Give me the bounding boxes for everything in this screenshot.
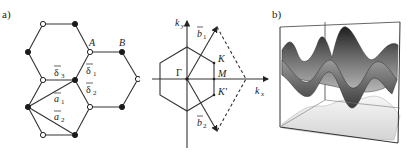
svg-text:1: 1: [93, 70, 97, 78]
delta2-label: δ 2: [86, 83, 97, 97]
svg-text:y: y: [180, 22, 185, 30]
Kprime-point: [213, 94, 216, 97]
site-filled: [119, 104, 124, 109]
site-open: [40, 21, 45, 26]
M-point: [213, 78, 216, 81]
site-open: [87, 104, 92, 109]
brillouin-zone-diagram: k y k x Γ M K K' b 1 b 2: [140, 0, 280, 153]
svg-text:1: 1: [61, 98, 65, 106]
svg-text:δ: δ: [86, 84, 91, 95]
site-filled: [72, 21, 77, 26]
panel-a-brillouin-zone: k y k x Γ M K K' b 1 b 2: [140, 0, 280, 153]
panel-b-band-structure: b): [270, 0, 419, 153]
svg-text:x: x: [260, 90, 265, 98]
K-point: [213, 62, 216, 65]
svg-text:b: b: [197, 28, 202, 39]
svg-text:2: 2: [93, 89, 97, 97]
site-filled: [72, 132, 77, 137]
svg-text:k: k: [175, 17, 180, 28]
M-label: M: [217, 68, 227, 79]
svg-text:2: 2: [203, 122, 207, 130]
Kprime-label: K': [217, 86, 228, 97]
svg-text:2: 2: [61, 116, 65, 124]
site-filled: [25, 49, 30, 54]
a1-label: a 1: [54, 93, 65, 106]
svg-text:δ: δ: [54, 67, 59, 78]
lower-band-surface: [282, 96, 400, 140]
panel-b-label: b): [272, 8, 282, 21]
gamma-point: [185, 77, 189, 81]
panel-a-lattice: a): [0, 0, 140, 153]
svg-text:b: b: [197, 117, 202, 128]
svg-text:δ: δ: [86, 65, 91, 76]
b2-label: b 2: [197, 116, 207, 130]
site-filled: [25, 104, 30, 109]
site-open: [40, 77, 45, 82]
site-A-label: A: [88, 37, 96, 48]
panel-a-label: a): [2, 8, 11, 21]
b2-vector: [187, 79, 217, 131]
site-B-label: B: [119, 37, 125, 48]
delta3-label: δ 3: [54, 66, 65, 80]
ky-label: k y: [175, 17, 185, 30]
gamma-label: Γ: [176, 67, 182, 78]
a2-label: a 2: [54, 111, 65, 124]
band-structure-3d-plot: b): [270, 0, 419, 153]
delta1-label: δ 1: [86, 64, 97, 78]
kx-label: k x: [255, 85, 265, 98]
site-filled: [119, 49, 124, 54]
svg-text:k: k: [255, 85, 260, 96]
site-filled: [72, 77, 77, 82]
site-open: [87, 49, 92, 54]
b1-vector: [187, 27, 217, 79]
K-label: K: [217, 53, 226, 64]
svg-text:1: 1: [203, 33, 207, 41]
svg-text:a: a: [54, 93, 59, 104]
svg-text:a: a: [54, 111, 59, 122]
honeycomb-lattice-diagram: a): [0, 0, 140, 153]
site-open: [40, 132, 45, 137]
b1-label: b 1: [197, 27, 207, 41]
svg-text:3: 3: [61, 72, 65, 80]
